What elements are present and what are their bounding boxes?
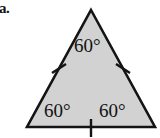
angle-label-bottom-left: 60° — [44, 101, 71, 120]
triangle-diagram — [0, 0, 160, 138]
angle-label-bottom-right: 60° — [99, 101, 126, 120]
angle-label-top: 60° — [74, 36, 101, 55]
geometry-figure: a. 60° 60° 60° — [0, 0, 160, 138]
